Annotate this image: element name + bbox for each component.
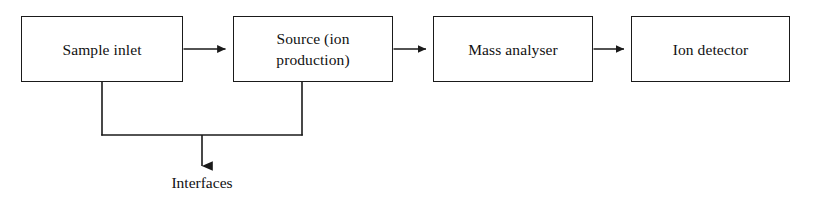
node-ion-detector-label: Ion detector [673, 39, 749, 60]
label-interfaces: Interfaces [142, 173, 262, 193]
node-source-ion-production-label: Source (ion production) [276, 28, 349, 70]
diagram-canvas: Sample inlet Source (ion production) Mas… [0, 0, 816, 203]
node-mass-analyser: Mass analyser [433, 16, 593, 82]
node-sample-inlet-label: Sample inlet [62, 39, 141, 60]
node-ion-detector: Ion detector [631, 16, 790, 82]
node-sample-inlet: Sample inlet [21, 16, 183, 82]
node-mass-analyser-label: Mass analyser [468, 39, 558, 60]
node-source-ion-production: Source (ion production) [233, 16, 393, 82]
